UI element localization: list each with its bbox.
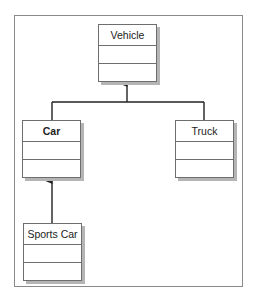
attributes-section [99, 46, 156, 64]
class-name-sports-car: Sports Car [24, 224, 81, 245]
class-box-car: Car [22, 120, 81, 178]
class-name-vehicle: Vehicle [99, 25, 156, 46]
class-name-car: Car [23, 121, 80, 142]
methods-section [24, 263, 81, 280]
class-box-truck: Truck [175, 120, 234, 178]
attributes-section [24, 245, 81, 263]
attributes-section [23, 142, 80, 160]
methods-section [23, 160, 80, 177]
methods-section [176, 160, 233, 177]
class-box-vehicle: Vehicle [98, 24, 157, 82]
attributes-section [176, 142, 233, 160]
methods-section [99, 64, 156, 81]
class-name-truck: Truck [176, 121, 233, 142]
class-box-sports-car: Sports Car [23, 223, 82, 281]
